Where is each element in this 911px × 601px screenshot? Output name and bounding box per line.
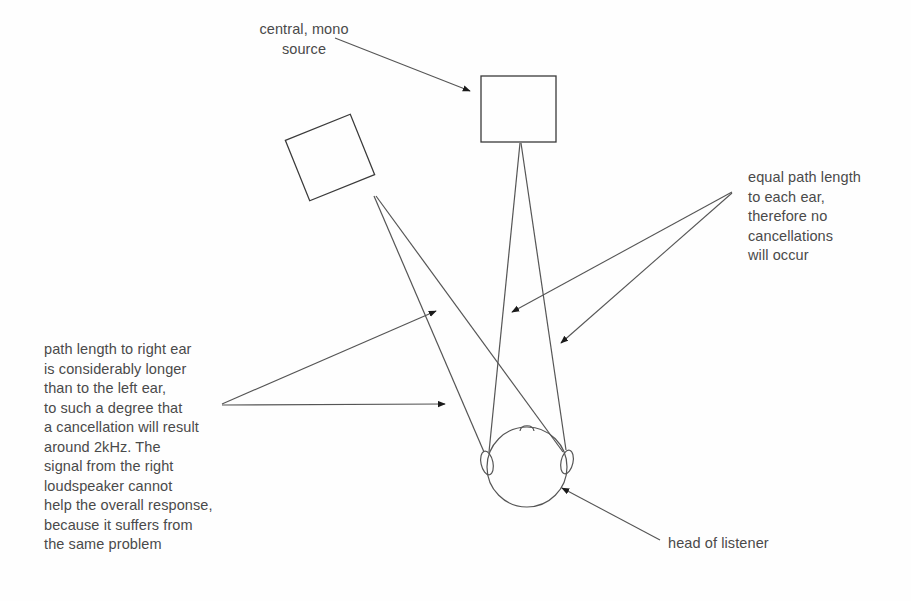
left-speaker	[285, 114, 374, 200]
signal-path-group	[374, 143, 566, 452]
head-circle	[487, 427, 567, 507]
label-equal-path-length: equal path length to each ear, therefore…	[748, 168, 908, 266]
signal-center-to-left-ear	[489, 143, 520, 452]
signal-left-speaker-to-left-ear	[374, 196, 484, 452]
equal-path-leader-arrow-1	[512, 192, 732, 312]
center-speaker	[481, 76, 556, 142]
listener-head	[479, 426, 576, 507]
path-length-leader-arrow-1	[222, 311, 436, 404]
label-central-mono-source: central, mono source	[224, 20, 384, 59]
leader-arrow-group	[222, 38, 732, 540]
path-length-leader-arrow-2	[222, 404, 445, 405]
diagram-canvas: central, mono source equal path length t…	[0, 0, 911, 601]
head-listener-leader-arrow	[562, 488, 660, 540]
label-head-of-listener: head of listener	[668, 534, 848, 554]
equal-path-leader-arrow-2	[561, 193, 732, 343]
label-path-length-right-ear: path length to right ear is considerably…	[44, 340, 254, 555]
